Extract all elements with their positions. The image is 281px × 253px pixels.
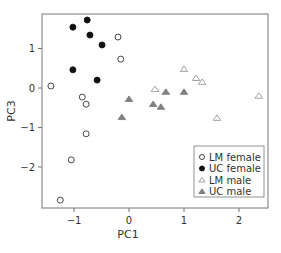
point-marker	[115, 34, 121, 40]
x-axis-label: PC1	[117, 228, 138, 241]
point-marker	[255, 93, 262, 99]
point-marker	[99, 42, 105, 48]
point-marker	[48, 83, 54, 89]
point-marker	[57, 197, 63, 203]
point-marker	[70, 24, 76, 30]
y-tick-label: −1	[20, 122, 35, 133]
x-tick-label: −1	[67, 215, 82, 226]
scatter-chart: −1012 −2−101 PC1 PC3 LM femaleUC femaleL…	[0, 0, 281, 253]
point-marker	[84, 17, 90, 23]
point-marker	[94, 77, 100, 83]
point-marker	[83, 101, 89, 107]
y-tick-label: 1	[29, 43, 35, 54]
point-marker	[180, 66, 188, 72]
point-marker	[180, 89, 188, 95]
point-marker	[118, 56, 124, 62]
x-tick-label: 0	[126, 215, 132, 226]
point-marker	[199, 166, 204, 171]
y-tick-label: −2	[20, 162, 35, 173]
y-tick-label: 0	[29, 83, 35, 94]
point-marker	[83, 131, 89, 137]
y-axis-label: PC3	[5, 100, 18, 121]
legend: LM femaleUC femaleLM maleUC male	[194, 146, 264, 197]
y-axis: −2−101	[20, 43, 42, 173]
point-marker	[213, 115, 221, 121]
legend-item-label: UC female	[209, 163, 261, 174]
point-marker	[149, 101, 157, 107]
point-marker	[118, 114, 126, 120]
legend-item-label: LM female	[209, 152, 261, 163]
point-marker	[157, 104, 165, 110]
x-tick-label: 2	[236, 215, 242, 226]
x-tick-label: 1	[181, 215, 187, 226]
point-marker	[70, 67, 76, 73]
legend-item-label: UC male	[209, 186, 251, 197]
x-axis: −1012	[67, 208, 243, 226]
point-marker	[125, 96, 133, 102]
point-marker	[79, 94, 85, 100]
point-marker	[199, 154, 204, 159]
point-marker	[87, 32, 93, 38]
point-marker	[192, 75, 200, 81]
point-marker	[68, 157, 74, 163]
point-marker	[162, 89, 170, 95]
point-marker	[151, 86, 159, 92]
legend-item-label: LM male	[209, 175, 251, 186]
